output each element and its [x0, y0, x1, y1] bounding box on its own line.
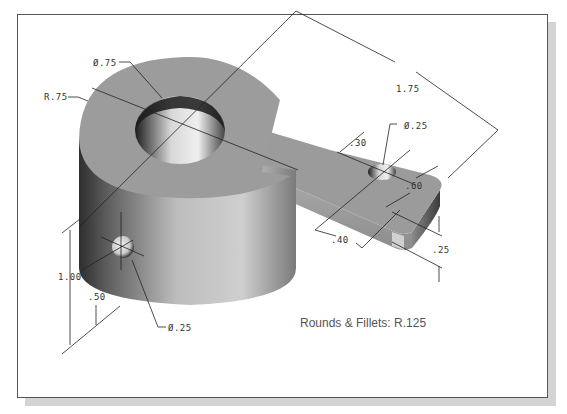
dim-outer-radius: R.75 — [44, 92, 68, 102]
dim-side-hole-height: .50 — [88, 292, 106, 302]
dim-arm-thickness: .25 — [432, 245, 450, 255]
cylinder-body — [79, 57, 296, 305]
dim-total-height: 1.00 — [58, 272, 82, 282]
dim-arm-length: 1.75 — [396, 84, 420, 94]
dim-bore-diameter: Ø.75 — [93, 58, 117, 68]
dim-small-hole-diameter: Ø.25 — [404, 121, 428, 131]
dim-small-hole-offset: .30 — [349, 138, 367, 148]
part-drawing: Ø.75 R.75 1.75 Ø.25 .30 .60 .40 .25 1.00… — [0, 0, 567, 414]
dim-arm-width: .60 — [405, 181, 423, 191]
rounds-fillets-note: Rounds & Fillets: R.125 — [300, 316, 426, 330]
dim-side-hole-diameter: Ø.25 — [168, 323, 192, 333]
dim-arm-offset: .40 — [331, 235, 349, 245]
